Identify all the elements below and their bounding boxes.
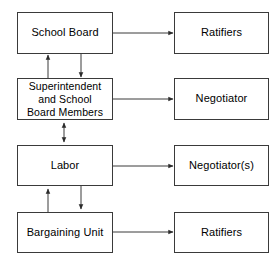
flow-diagram: School Board Superintendent and School B… <box>0 0 280 264</box>
node-label: Negotiator <box>194 92 250 106</box>
node-label: School Board <box>29 26 100 40</box>
node-negotiators[interactable]: Negotiator(s) <box>174 145 269 186</box>
node-labor[interactable]: Labor <box>17 145 113 186</box>
node-school-board[interactable]: School Board <box>17 12 113 54</box>
node-label: Ratifiers <box>199 26 244 40</box>
node-ratifiers-bottom[interactable]: Ratifiers <box>174 212 269 253</box>
node-label: Negotiator(s) <box>187 159 256 173</box>
node-label: Superintendent and School Board Members <box>25 80 105 119</box>
node-label: Bargaining Unit <box>25 226 106 240</box>
node-negotiator[interactable]: Negotiator <box>174 78 269 120</box>
node-ratifiers-top[interactable]: Ratifiers <box>174 12 269 54</box>
node-superintendent-and-school-board-members[interactable]: Superintendent and School Board Members <box>17 78 113 120</box>
node-label: Labor <box>49 159 82 173</box>
node-label: Ratifiers <box>199 226 244 240</box>
node-bargaining-unit[interactable]: Bargaining Unit <box>17 212 113 253</box>
